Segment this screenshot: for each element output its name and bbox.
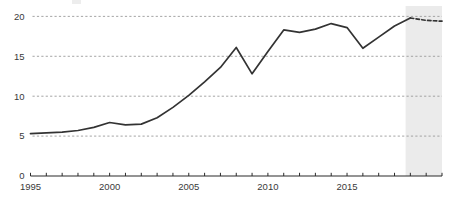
chart-canvas: 05101520 19952000200520102015 xyxy=(0,0,452,210)
x-axis-label-2010: 2010 xyxy=(257,181,278,192)
y-axis-label-0: 0 xyxy=(19,170,24,181)
data-series-layer xyxy=(31,18,443,134)
forecast-shading-layer xyxy=(406,6,442,176)
gridlines-layer xyxy=(33,16,443,136)
x-axis-labels: 19952000200520102015 xyxy=(20,181,358,192)
x-axis-label-2015: 2015 xyxy=(336,181,357,192)
scan-artifact xyxy=(72,0,81,4)
x-axis-label-2005: 2005 xyxy=(178,181,199,192)
y-axis-labels: 05101520 xyxy=(14,11,25,182)
series-line-value xyxy=(31,18,411,134)
line-chart: 05101520 19952000200520102015 xyxy=(0,0,452,210)
y-axis-label-5: 5 xyxy=(19,130,24,141)
y-axis-label-15: 15 xyxy=(14,51,25,62)
y-axis-label-20: 20 xyxy=(14,11,25,22)
y-axis-label-10: 10 xyxy=(14,91,25,102)
x-axis-label-1995: 1995 xyxy=(20,181,41,192)
x-axis-label-2000: 2000 xyxy=(99,181,120,192)
forecast-band xyxy=(406,6,442,176)
